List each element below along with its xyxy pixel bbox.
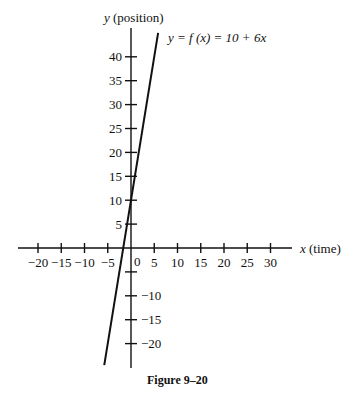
y-tick-label: 15 bbox=[109, 169, 122, 184]
x-tick-label: 30 bbox=[264, 255, 277, 270]
x-tick-label: −15 bbox=[51, 255, 71, 270]
x-tick-label: 25 bbox=[241, 255, 254, 270]
y-tick-label: 35 bbox=[109, 73, 122, 88]
y-tick-label: 5 bbox=[116, 217, 123, 232]
y-tick-label: −15 bbox=[141, 312, 161, 327]
x-tick-label: 10 bbox=[171, 255, 184, 270]
y-tick-label: 10 bbox=[109, 193, 122, 208]
y-tick-label: −10 bbox=[141, 288, 161, 303]
y-tick-label: 20 bbox=[109, 145, 122, 160]
y-ticks: 403530252015105−10−15−20 bbox=[109, 49, 161, 351]
figure-caption: Figure 9–20 bbox=[147, 373, 208, 387]
y-tick-label: 25 bbox=[109, 121, 122, 136]
y-tick-label: 30 bbox=[109, 97, 122, 112]
x-tick-label: 20 bbox=[218, 255, 231, 270]
origin-label: 0 bbox=[134, 254, 141, 269]
y-tick-label: 40 bbox=[109, 49, 122, 64]
x-tick-label: −10 bbox=[74, 255, 94, 270]
x-tick-label: 15 bbox=[194, 255, 207, 270]
x-tick-label: −20 bbox=[28, 255, 48, 270]
x-ticks: −20−15−10−551015202530 bbox=[28, 243, 277, 270]
x-axis-label: x (time) bbox=[299, 241, 341, 256]
x-tick-label: −5 bbox=[101, 255, 115, 270]
y-axis-label: y (position) bbox=[102, 10, 164, 25]
x-tick-label: 5 bbox=[151, 255, 158, 270]
line-chart: −20−15−10−551015202530 403530252015105−1… bbox=[0, 0, 355, 400]
y-tick-label: −20 bbox=[141, 336, 161, 351]
equation-label: y = f (x) = 10 + 6x bbox=[166, 30, 266, 45]
